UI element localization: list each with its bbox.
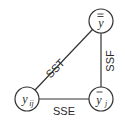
svg-text:y: y <box>97 16 104 30</box>
svg-text:y: y <box>95 93 102 107</box>
svg-text:ij: ij <box>29 99 34 108</box>
edge-sst <box>35 29 93 90</box>
edge-label-ssf: SSF <box>104 50 116 72</box>
node-group-mean: y j <box>89 87 113 111</box>
svg-text:y: y <box>21 92 28 106</box>
node-observation: y ij <box>15 87 39 111</box>
edge-label-sse: SSE <box>53 105 75 117</box>
sum-of-squares-triangle: SST SSF SSE y y j y ij <box>0 0 125 127</box>
node-grand-mean: y <box>89 9 113 33</box>
